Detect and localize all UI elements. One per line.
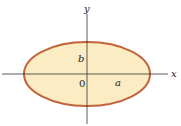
x-axis-label: x bbox=[171, 68, 177, 79]
semi-minor-label: b bbox=[78, 53, 84, 64]
origin-label: 0 bbox=[79, 78, 85, 89]
ellipse-diagram: x y b 0 a bbox=[0, 0, 181, 126]
semi-major-label: a bbox=[115, 77, 121, 88]
y-axis-label: y bbox=[83, 3, 90, 14]
